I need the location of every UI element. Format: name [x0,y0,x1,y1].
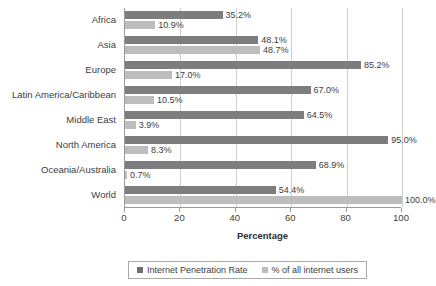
bar-value-label: 48.7% [263,46,289,55]
bar-1 [125,146,148,154]
x-axis-tick-label: 60 [285,213,296,223]
bar-value-label: 67.0% [314,86,340,95]
bar-value-label: 64.5% [307,111,333,120]
category-label: Asia [98,40,116,50]
bar-value-label: 0.7% [130,171,151,180]
bar-0 [125,111,304,119]
legend-label: Internet Penetration Rate [147,266,248,275]
gridline [347,8,348,207]
category-label: Africa [92,15,116,25]
bar-value-label: 35.2% [226,11,252,20]
plot-area: 35.2%10.9%48.1%48.7%85.2%17.0%67.0%10.5%… [124,8,401,207]
category-label: Europe [85,65,116,75]
bar-1 [125,96,154,104]
x-axis [124,207,401,214]
bar-value-label: 85.2% [364,61,390,70]
bar-0 [125,136,388,144]
x-axis-tick-label: 80 [340,213,351,223]
bar-0 [125,86,311,94]
bar-value-label: 48.1% [261,36,287,45]
category-label: World [91,190,116,200]
category-label: Middle East [66,115,116,125]
bar-1 [125,21,155,29]
x-axis-tick-label: 20 [174,213,185,223]
bar-1 [125,171,127,179]
bar-value-label: 17.0% [175,71,201,80]
bar-1 [125,121,136,129]
legend-swatch-icon [137,267,143,273]
bar-1 [125,196,402,204]
x-axis-title: Percentage [124,230,401,241]
bar-1 [125,46,260,54]
legend-item[interactable]: % of all internet users [262,266,359,275]
category-axis-labels: AfricaAsiaEuropeLatin America/CaribbeanM… [0,8,120,208]
bar-value-label: 95.0% [391,136,417,145]
bar-1 [125,71,172,79]
legend-label: % of all internet users [272,266,359,275]
bar-value-label: 10.9% [158,21,184,30]
plot-wrapper: AfricaAsiaEuropeLatin America/CaribbeanM… [0,8,422,208]
category-label: North America [56,140,116,150]
legend-swatch-icon [262,267,268,273]
x-axis-tick-label: 100 [393,213,409,223]
bar-value-label: 3.9% [139,121,160,130]
bar-value-label: 100.0% [405,196,436,205]
bar-0 [125,161,316,169]
category-label: Oceania/Australia [41,165,116,175]
bar-0 [125,36,258,44]
bar-value-label: 8.3% [151,146,172,155]
x-axis-tick-label: 0 [121,213,126,223]
chart-legend: Internet Penetration Rate% of all intern… [128,261,367,279]
bar-value-label: 68.9% [319,161,345,170]
x-axis-tick-label: 40 [230,213,241,223]
bar-value-label: 54.4% [279,186,305,195]
category-label: Latin America/Caribbean [12,90,116,100]
bar-0 [125,61,361,69]
bar-0 [125,11,223,19]
bar-value-label: 10.5% [157,96,183,105]
legend-item[interactable]: Internet Penetration Rate [137,266,248,275]
gridline [291,8,292,207]
bar-0 [125,186,276,194]
gridline [402,8,403,207]
